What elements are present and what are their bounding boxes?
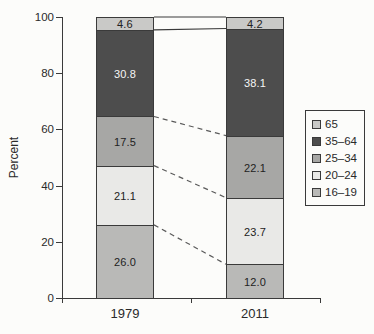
- legend-swatch-icon: [312, 154, 321, 163]
- bar-segment-2011-35–64: 38.1: [226, 29, 284, 137]
- legend-swatch-icon: [312, 188, 321, 197]
- y-tick-label: 80: [24, 67, 54, 80]
- legend-item-35–64: 35–64: [312, 135, 360, 147]
- y-tick-label: 100: [24, 11, 54, 24]
- bar-segment-1979-20–24: 21.1: [96, 166, 154, 226]
- x-axis-tick: [191, 298, 192, 303]
- bar-segment-1979-25–34: 17.5: [96, 116, 154, 167]
- connector-line-dashed-level-1: [154, 225, 226, 264]
- legend-swatch-icon: [312, 120, 321, 129]
- legend-label: 16–19: [325, 186, 357, 198]
- y-tick-label: 20: [24, 236, 54, 249]
- legend-label: 25–34: [325, 152, 357, 164]
- bar-segment-2011-20–24: 23.7: [226, 198, 284, 265]
- y-axis-tick: [56, 17, 62, 18]
- legend-item-25–34: 25–34: [312, 152, 360, 164]
- legend-label: 20–24: [325, 169, 357, 181]
- y-tick-label: 40: [24, 180, 54, 193]
- connector-line-dashed-level-2: [154, 166, 226, 198]
- y-axis-tick: [56, 129, 62, 130]
- y-tick-label: 60: [24, 123, 54, 136]
- legend-item-16–19: 16–19: [312, 186, 360, 198]
- y-axis-line: [62, 17, 63, 299]
- bar-segment-2011-65: 4.2: [226, 17, 284, 30]
- legend-box: 6535–6425–3420–2416–19: [305, 110, 365, 206]
- bar-segment-1979-16–19: 26.0: [96, 225, 154, 299]
- bar-segment-2011-16–19: 12.0: [226, 264, 284, 299]
- legend-item-65: 65: [312, 118, 360, 130]
- bar-segment-2011-25–34: 22.1: [226, 136, 284, 199]
- connector-line-dashed-level-3: [154, 117, 226, 136]
- legend-swatch-icon: [312, 171, 321, 180]
- bar-segment-1979-35–64: 30.8: [96, 30, 154, 117]
- stacked-bar-chart: Percent 6535–6425–3420–2416–19 020406080…: [0, 0, 374, 334]
- legend-label: 65: [325, 118, 338, 130]
- y-axis-tick: [56, 73, 62, 74]
- bar-segment-1979-65: 4.6: [96, 17, 154, 31]
- x-category-label: 1979: [90, 306, 160, 321]
- y-tick-label: 0: [24, 292, 54, 305]
- legend-swatch-icon: [312, 137, 321, 146]
- x-category-label: 2011: [220, 306, 290, 321]
- legend-label: 35–64: [325, 135, 357, 147]
- y-axis-tick: [56, 186, 62, 187]
- x-axis-tick: [62, 298, 63, 303]
- y-axis-title: Percent: [7, 128, 22, 188]
- connector-line-solid-level-4: [154, 29, 226, 30]
- legend-item-20–24: 20–24: [312, 169, 360, 181]
- y-axis-tick: [56, 242, 62, 243]
- x-axis-tick: [320, 298, 321, 303]
